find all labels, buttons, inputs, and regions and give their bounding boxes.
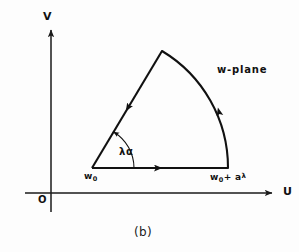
vertex-label-subscript: 0: [93, 175, 98, 183]
endpoint-label-w0-plus-a-lambda: w0+ aλ: [210, 172, 246, 183]
vertex-label-base: w: [84, 171, 93, 181]
axis-label-v: V: [43, 11, 52, 22]
w-plane-sector-diagram: [0, 0, 299, 252]
vertex-label-w0: w0: [84, 172, 98, 182]
w-plane-label: w-plane: [217, 65, 267, 75]
endpoint-label-operator: + a: [224, 172, 242, 182]
endpoint-label-base: w: [210, 172, 219, 182]
endpoint-label-superscript: λ: [242, 171, 247, 180]
angle-label: λα: [119, 147, 133, 157]
figure-container: V U O w-plane λα w0 w0+ aλ (b): [0, 0, 299, 252]
axis-label-u: U: [283, 186, 292, 197]
origin-label: O: [38, 195, 47, 205]
figure-caption: (b): [134, 226, 152, 238]
